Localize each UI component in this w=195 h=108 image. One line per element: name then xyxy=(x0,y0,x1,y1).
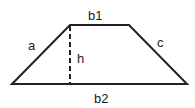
trapezoid-shape xyxy=(12,25,187,84)
label-h: h xyxy=(77,51,84,66)
trapezoid-diagram: b1 b2 a c h xyxy=(0,0,195,108)
label-c: c xyxy=(157,35,164,50)
label-a: a xyxy=(28,38,36,53)
label-b1: b1 xyxy=(88,8,102,23)
label-b2: b2 xyxy=(94,91,108,106)
